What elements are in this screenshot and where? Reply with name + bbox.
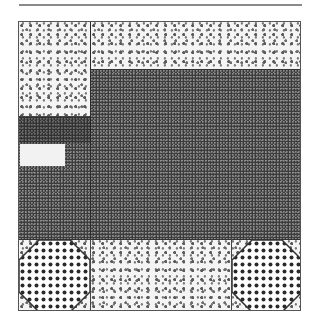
texture-frame <box>18 21 301 311</box>
left-white-rectangle <box>20 144 65 166</box>
top-rule <box>19 4 302 6</box>
top-left-light-block <box>19 22 91 117</box>
vertical-divider-bottom-left <box>90 239 91 311</box>
bottom-right-octagon <box>232 240 301 311</box>
bottom-left-octagon <box>19 240 90 311</box>
top-right-light-band <box>91 22 301 70</box>
left-dark-strip <box>19 117 91 143</box>
